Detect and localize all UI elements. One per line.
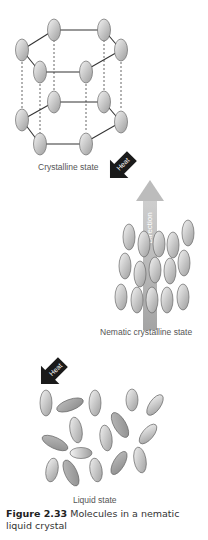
- liquid-molecules: [40, 389, 166, 488]
- crystalline-state-label: Crystalline state: [38, 162, 98, 172]
- nematic-state-label: Nematic crystalline state: [100, 327, 192, 337]
- crystalline-lattice: [16, 19, 128, 155]
- nematic-diagram: Heat Direction Heat: [0, 0, 208, 540]
- heat-arrow-1: Heat: [101, 147, 141, 187]
- figure-caption: Figure 2.33 Molecules in a nematic liqui…: [6, 508, 206, 532]
- liquid-state-label: Liquid state: [73, 495, 116, 505]
- figure-number: Figure 2.33: [6, 508, 67, 519]
